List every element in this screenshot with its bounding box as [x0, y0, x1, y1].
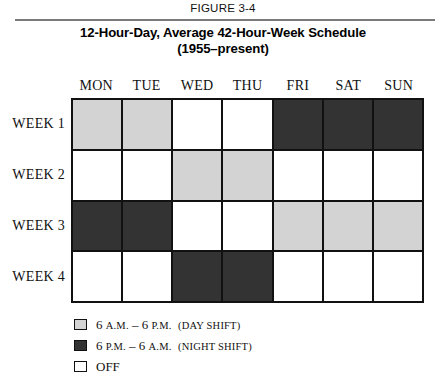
- schedule-cell-week-4-thu: [223, 252, 273, 301]
- legend: 6 A.M. – 6 P.M. (DAY SHIFT) 6 P.M. – 6 A…: [74, 314, 404, 377]
- day-header-tue: TUE: [121, 76, 171, 96]
- schedule-cell-week-3-sun: [374, 202, 422, 251]
- schedule-cell-week-1-sat: [324, 100, 374, 149]
- schedule-cell-week-2-wed: [173, 151, 223, 200]
- legend-label-night-shift: 6 P.M. – 6 A.M. (NIGHT SHIFT): [96, 338, 252, 354]
- week-label-4: WEEK 4: [0, 269, 65, 285]
- legend-item-night-shift: 6 P.M. – 6 A.M. (NIGHT SHIFT): [74, 335, 404, 356]
- page-title: 12-Hour-Day, Average 42-Hour-Week Schedu…: [0, 25, 446, 56]
- legend-item-off: OFF: [74, 356, 404, 377]
- schedule-cell-week-3-thu: [223, 202, 273, 251]
- schedule-cell-week-1-sun: [374, 100, 422, 149]
- week-label-3: WEEK 3: [0, 218, 65, 234]
- schedule-cell-week-1-wed: [173, 100, 223, 149]
- day-header-fri: FRI: [273, 76, 323, 96]
- schedule-row: [73, 100, 422, 151]
- schedule-grid: [71, 98, 424, 303]
- schedule-cell-week-2-fri: [274, 151, 324, 200]
- schedule-cell-week-3-fri: [274, 202, 324, 251]
- schedule-cell-week-4-sat: [324, 252, 374, 301]
- schedule-row: [73, 252, 422, 301]
- day-header-sun: SUN: [374, 76, 424, 96]
- legend-swatch-night-icon: [74, 340, 87, 351]
- schedule-row: [73, 151, 422, 202]
- figure-number: FIGURE 3-4: [0, 2, 446, 14]
- schedule-cell-week-1-thu: [223, 100, 273, 149]
- legend-swatch-day-icon: [74, 319, 87, 330]
- schedule-cell-week-2-sun: [374, 151, 422, 200]
- schedule-cell-week-2-tue: [123, 151, 173, 200]
- schedule-cell-week-2-thu: [223, 151, 273, 200]
- schedule-cell-week-1-fri: [274, 100, 324, 149]
- legend-label-off: OFF: [96, 359, 120, 375]
- day-header-row: MON TUE WED THU FRI SAT SUN: [71, 76, 424, 96]
- schedule-cell-week-1-tue: [123, 100, 173, 149]
- schedule-cell-week-2-mon: [73, 151, 123, 200]
- figure-title-line-2: (1955–present): [0, 41, 446, 57]
- schedule-cell-week-2-sat: [324, 151, 374, 200]
- schedule-cell-week-4-wed: [173, 252, 223, 301]
- day-header-mon: MON: [71, 76, 121, 96]
- schedule-cell-week-4-fri: [274, 252, 324, 301]
- schedule-cell-week-3-wed: [173, 202, 223, 251]
- legend-swatch-off-icon: [74, 361, 87, 372]
- schedule-cell-week-3-sat: [324, 202, 374, 251]
- schedule-row: [73, 202, 422, 253]
- day-header-thu: THU: [222, 76, 272, 96]
- day-header-wed: WED: [172, 76, 222, 96]
- schedule-cell-week-3-mon: [73, 202, 123, 251]
- week-label-2: WEEK 2: [0, 167, 65, 183]
- schedule-cell-week-4-sun: [374, 252, 422, 301]
- day-header-sat: SAT: [323, 76, 373, 96]
- figure-title-line-1: 12-Hour-Day, Average 42-Hour-Week Schedu…: [80, 25, 366, 40]
- schedule-cell-week-4-mon: [73, 252, 123, 301]
- legend-item-day-shift: 6 A.M. – 6 P.M. (DAY SHIFT): [74, 314, 404, 335]
- figure-divider-rule: [15, 19, 435, 21]
- schedule-cell-week-1-mon: [73, 100, 123, 149]
- schedule-cell-week-3-tue: [123, 202, 173, 251]
- week-label-1: WEEK 1: [0, 116, 65, 132]
- legend-label-day-shift: 6 A.M. – 6 P.M. (DAY SHIFT): [96, 317, 240, 333]
- schedule-cell-week-4-tue: [123, 252, 173, 301]
